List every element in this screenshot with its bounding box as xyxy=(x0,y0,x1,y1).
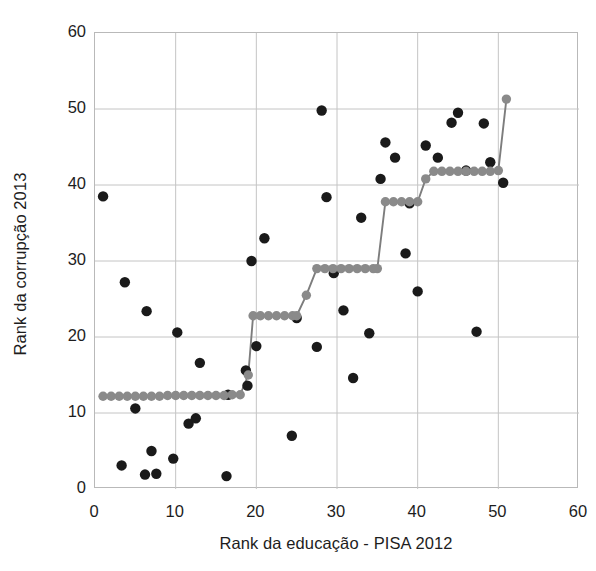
x-tick-label: 30 xyxy=(316,502,356,521)
y-tick-label: 50 xyxy=(44,98,86,117)
scatter-point xyxy=(246,256,256,266)
y-tick-label: 30 xyxy=(44,250,86,269)
scatter-point xyxy=(316,105,326,115)
fitted-point xyxy=(163,391,172,400)
scatter-point xyxy=(251,341,261,351)
fitted-point xyxy=(302,291,311,300)
y-tick-label: 0 xyxy=(44,478,86,497)
fitted-point xyxy=(352,264,361,273)
fitted-point xyxy=(389,197,398,206)
scatter-point xyxy=(242,380,252,390)
scatter-point xyxy=(400,248,410,258)
y-axis-title: Rank da corrupção 2013 xyxy=(6,36,34,492)
scatter-point xyxy=(433,152,443,162)
y-axis-tick-labels: 0102030405060 xyxy=(34,0,86,571)
fitted-point xyxy=(256,311,265,320)
scatter-point xyxy=(446,117,456,127)
x-tick-label: 10 xyxy=(155,502,195,521)
fitted-point xyxy=(106,392,115,401)
fitted-point xyxy=(397,197,406,206)
x-axis-title: Rank da educação - PISA 2012 xyxy=(94,534,578,553)
scatter-point xyxy=(380,137,390,147)
scatter-point xyxy=(259,233,269,243)
fitted-points-group xyxy=(98,94,511,401)
fitted-point xyxy=(292,311,301,320)
fitted-point xyxy=(421,174,430,183)
fitted-point xyxy=(320,264,329,273)
fitted-point xyxy=(115,392,124,401)
fitted-point xyxy=(413,197,422,206)
scatter-point xyxy=(479,118,489,128)
x-axis-tick-labels: 0102030405060 xyxy=(0,498,596,528)
y-tick-label: 40 xyxy=(44,174,86,193)
fitted-point xyxy=(280,311,289,320)
y-tick-label: 60 xyxy=(44,22,86,41)
scatter-point xyxy=(146,446,156,456)
fitted-point xyxy=(494,166,503,175)
fitted-point xyxy=(336,264,345,273)
fitted-point xyxy=(437,167,446,176)
scatter-point xyxy=(348,373,358,383)
fitted-point xyxy=(469,167,478,176)
fitted-point xyxy=(211,391,220,400)
fitted-point xyxy=(381,197,390,206)
fitted-point xyxy=(272,311,281,320)
fitted-point xyxy=(445,167,454,176)
scatter-point xyxy=(120,277,130,287)
scatter-point xyxy=(191,413,201,423)
fitted-point xyxy=(187,391,196,400)
scatter-point xyxy=(453,108,463,118)
scatter-point xyxy=(421,140,431,150)
fitted-point xyxy=(478,167,487,176)
fitted-point xyxy=(264,311,273,320)
scatter-point xyxy=(338,305,348,315)
x-tick-label: 60 xyxy=(558,502,596,521)
fitted-point xyxy=(486,167,495,176)
y-tick-label: 10 xyxy=(44,402,86,421)
fitted-point xyxy=(461,167,470,176)
fitted-point xyxy=(123,392,132,401)
scatter-point xyxy=(375,174,385,184)
fitted-point xyxy=(139,392,148,401)
scatter-point xyxy=(412,286,422,296)
scatter-point xyxy=(221,471,231,481)
scatter-point xyxy=(312,342,322,352)
scatter-point xyxy=(130,403,140,413)
scatter-point xyxy=(116,460,126,470)
scatter-point xyxy=(390,152,400,162)
fitted-point xyxy=(98,392,107,401)
scatter-point xyxy=(140,469,150,479)
fitted-point xyxy=(361,264,370,273)
fitted-point xyxy=(147,392,156,401)
fitted-point xyxy=(312,264,321,273)
fitted-point xyxy=(502,94,511,103)
fitted-point xyxy=(236,390,245,399)
scatter-point xyxy=(498,178,508,188)
scatter-point xyxy=(172,327,182,337)
scatter-chart: Rank da corrupção 2013 0102030405060 010… xyxy=(0,0,596,571)
scatter-point xyxy=(151,469,161,479)
scatter-point xyxy=(168,453,178,463)
fitted-point xyxy=(405,197,414,206)
x-tick-label: 20 xyxy=(235,502,275,521)
x-tick-label: 40 xyxy=(397,502,437,521)
scatter-point xyxy=(287,431,297,441)
fitted-point xyxy=(131,392,140,401)
scatter-point xyxy=(195,358,205,368)
fitted-point xyxy=(155,392,164,401)
x-tick-label: 0 xyxy=(74,502,114,521)
fitted-curve-line xyxy=(103,99,506,396)
scatter-point xyxy=(98,191,108,201)
fitted-point xyxy=(429,167,438,176)
scatter-point xyxy=(471,326,481,336)
y-tick-label: 20 xyxy=(44,326,86,345)
fitted-point xyxy=(453,167,462,176)
fitted-point xyxy=(219,391,228,400)
fitted-point xyxy=(171,391,180,400)
fitted-point xyxy=(195,391,204,400)
plot-canvas xyxy=(95,33,579,489)
fitted-point xyxy=(203,391,212,400)
scatter-point xyxy=(364,328,374,338)
scatter-point xyxy=(141,306,151,316)
fitted-point xyxy=(373,264,382,273)
